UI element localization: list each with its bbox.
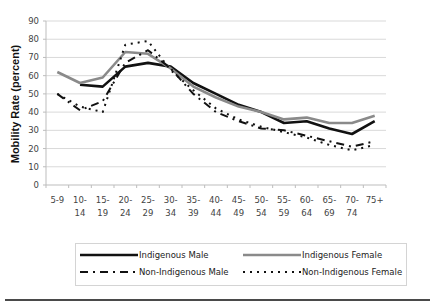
legend-label: Non-Indigenous Female: [302, 267, 402, 277]
x-tick-label: 29: [143, 208, 154, 218]
y-tick-label: 80: [28, 34, 39, 44]
x-tick-label: 5-9: [50, 195, 64, 205]
x-tick-label: 65-: [322, 195, 336, 205]
y-tick-label: 70: [28, 52, 39, 62]
y-tick-label: 20: [28, 144, 39, 154]
x-tick-label: 54: [256, 208, 267, 218]
y-axis-label: Mobility Rate (percent): [9, 44, 21, 163]
legend-label: Non-Indigenous Male: [139, 267, 229, 277]
x-tick-label: 60-: [300, 195, 314, 205]
legend: Indigenous Male Indigenous Female Non-In…: [75, 243, 407, 286]
y-tick-label: 10: [28, 162, 39, 172]
legend-item-non-indigenous-male: Non-Indigenous Male: [80, 267, 229, 277]
legend-item-indigenous-male: Indigenous Male: [80, 250, 209, 260]
dotted-line-swatch-icon: [243, 268, 301, 276]
y-tick-label: 40: [28, 107, 39, 117]
y-tick-label: 0: [34, 180, 39, 190]
x-tick-label: 14: [75, 208, 86, 218]
y-tick-label: 50: [28, 89, 39, 99]
x-tick-label: 10-: [73, 195, 87, 205]
x-tick-label: 55-: [277, 195, 291, 205]
y-tick-label: 90: [28, 16, 39, 26]
x-tick-label: 20-: [118, 195, 132, 205]
x-tick-label: 30-: [164, 195, 178, 205]
legend-label: Indigenous Male: [139, 250, 209, 260]
x-tick-label: 34: [165, 208, 176, 218]
x-tick-label: 74: [347, 208, 358, 218]
x-tick-label: 39: [188, 208, 199, 218]
x-tick-label: 25-: [141, 195, 155, 205]
x-tick-label: 15-: [96, 195, 110, 205]
x-tick-label: 19: [97, 208, 108, 218]
y-axis-ticks: 0102030405060708090: [28, 16, 39, 190]
x-tick-label: 59: [279, 208, 290, 218]
x-tick-label: 40-: [209, 195, 223, 205]
x-tick-label: 45-: [232, 195, 246, 205]
legend-label: Indigenous Female: [302, 250, 382, 260]
legend-item-non-indigenous-female: Non-Indigenous Female: [243, 267, 402, 277]
x-tick-label: 50-: [254, 195, 268, 205]
x-tick-label: 69: [324, 208, 335, 218]
x-tick-label: 75+: [366, 195, 384, 205]
y-tick-label: 60: [28, 71, 39, 81]
bottom-rule-divider: [5, 299, 430, 301]
x-tick-label: 24: [120, 208, 131, 218]
y-tick-label: 30: [28, 125, 39, 135]
x-tick-label: 70-: [345, 195, 359, 205]
x-tick-label: 49: [233, 208, 244, 218]
legend-item-indigenous-female: Indigenous Female: [243, 250, 382, 260]
gray-line-swatch-icon: [243, 251, 301, 259]
x-tick-label: 35-: [186, 195, 200, 205]
x-tick-label: 44: [211, 208, 222, 218]
x-axis-ticks: 5-910-1415-1920-2425-2930-3435-3940-4445…: [50, 195, 383, 218]
dashdot-line-swatch-icon: [80, 268, 138, 276]
solid-line-swatch-icon: [80, 251, 138, 259]
x-tick-label: 64: [301, 208, 312, 218]
